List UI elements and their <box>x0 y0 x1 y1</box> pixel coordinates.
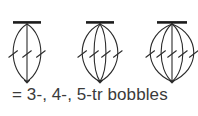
bobble-symbol-3-tr <box>9 22 45 82</box>
diagram-canvas: = 3-, 4-, 5-tr bobbles <box>0 0 198 116</box>
bobble-strand <box>100 24 118 82</box>
bobble-symbol-4-tr <box>78 22 122 82</box>
bobble-strand <box>82 24 100 82</box>
bobble-symbol-5-tr <box>146 22 198 82</box>
caption-text: = 3-, 4-, 5-tr bobbles <box>12 85 198 109</box>
bobble-strand <box>100 24 106 82</box>
